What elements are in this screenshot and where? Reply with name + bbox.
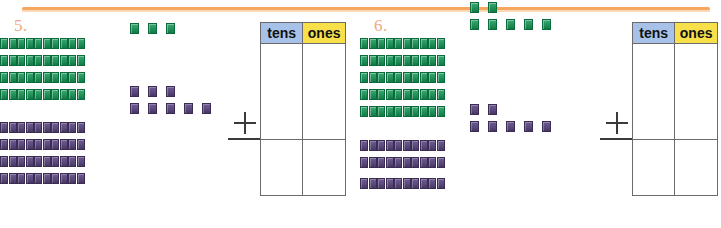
unit-cube-purple	[130, 86, 139, 97]
sum-entry-row	[261, 140, 346, 196]
rod-row	[0, 139, 250, 152]
ten-rod-purple	[0, 156, 85, 167]
addend-1-blocks-green	[0, 38, 250, 106]
addend-2-blocks-purple	[0, 122, 250, 190]
column-header-ones: ones	[675, 23, 718, 44]
plus-operator-icon	[234, 112, 256, 134]
rod-row	[0, 122, 250, 135]
unit-cube-purple	[166, 86, 175, 97]
rod-row	[0, 173, 250, 186]
unit-cubes-row-purple	[470, 104, 506, 115]
unit-cube-green	[166, 23, 175, 34]
unit-cube-purple	[470, 104, 479, 115]
addends-entry-row	[261, 44, 346, 140]
tens-addend-input-cell[interactable]	[261, 44, 303, 140]
ones-sum-input-cell[interactable]	[303, 140, 346, 196]
tens-sum-input-cell[interactable]	[261, 140, 303, 196]
unit-cube-purple	[130, 103, 139, 114]
unit-cube-purple	[488, 104, 497, 115]
unit-cube-purple	[542, 121, 551, 132]
unit-cube-purple	[166, 103, 175, 114]
rod-row	[0, 156, 250, 169]
tens-addend-input-cell[interactable]	[633, 44, 675, 140]
base-ten-blocks-area	[0, 0, 250, 228]
unit-cube-purple	[148, 86, 157, 97]
rod-row	[360, 178, 610, 191]
unit-cube-green	[470, 19, 479, 30]
table-header-row: tens ones	[633, 23, 718, 44]
ones-addend-input-cell[interactable]	[303, 44, 346, 140]
rod-row	[360, 55, 610, 68]
place-value-chart-wrapper: tens ones	[218, 0, 348, 228]
unit-cube-purple	[148, 103, 157, 114]
problem-5: 5.	[0, 0, 360, 228]
rod-row	[0, 72, 250, 85]
place-value-table: tens ones	[632, 22, 718, 196]
unit-cube-green	[542, 19, 551, 30]
ten-rod-green	[0, 89, 85, 100]
unit-cube-green	[130, 23, 139, 34]
base-ten-blocks-area	[360, 0, 610, 228]
ten-rod-green	[360, 106, 445, 117]
unit-cube-green	[488, 19, 497, 30]
rod-row	[0, 89, 250, 102]
rod-row	[360, 72, 610, 85]
unit-cube-purple	[524, 121, 533, 132]
unit-cube-purple	[506, 121, 515, 132]
ten-rod-green	[360, 89, 445, 100]
unit-cubes-row-purple	[130, 103, 220, 114]
unit-cube-purple	[488, 121, 497, 132]
ones-addend-input-cell[interactable]	[675, 44, 718, 140]
ten-rod-green	[0, 72, 85, 83]
ten-rod-purple	[0, 173, 85, 184]
ten-rod-green	[0, 55, 85, 66]
ten-rod-green	[360, 38, 445, 49]
plus-operator-icon	[606, 112, 628, 134]
rod-row	[360, 140, 610, 153]
unit-cubes-row-purple	[470, 121, 560, 132]
ten-rod-green	[360, 55, 445, 66]
ten-rod-purple	[360, 178, 445, 189]
tens-sum-input-cell[interactable]	[633, 140, 675, 196]
unit-cube-green	[506, 19, 515, 30]
rod-row	[0, 55, 250, 68]
addend-2-blocks-purple	[360, 140, 610, 195]
table-header-row: tens ones	[261, 23, 346, 44]
unit-cube-green	[470, 2, 479, 13]
unit-cubes-row-green	[470, 19, 560, 30]
ten-rod-purple	[0, 122, 85, 133]
worksheet-page: 5.	[0, 0, 721, 228]
addends-entry-row	[633, 44, 718, 140]
unit-cube-green	[488, 2, 497, 13]
unit-cube-purple	[184, 103, 193, 114]
rod-row	[360, 38, 610, 51]
place-value-chart-wrapper: tens ones	[590, 0, 720, 228]
ten-rod-green	[0, 38, 85, 49]
column-header-tens: tens	[633, 23, 675, 44]
unit-cube-green	[148, 23, 157, 34]
rod-row	[0, 38, 250, 51]
ten-rod-purple	[360, 140, 445, 151]
ones-sum-input-cell[interactable]	[675, 140, 718, 196]
column-header-tens: tens	[261, 23, 303, 44]
rod-row	[360, 157, 610, 170]
unit-cube-purple	[470, 121, 479, 132]
problem-6: 6.	[360, 0, 720, 228]
sum-entry-row	[633, 140, 718, 196]
ten-rod-purple	[360, 157, 445, 168]
ten-rod-green	[360, 72, 445, 83]
unit-cube-purple	[202, 103, 211, 114]
unit-cubes-row-green	[470, 2, 506, 13]
column-header-ones: ones	[303, 23, 346, 44]
ten-rod-purple	[0, 139, 85, 150]
rod-row	[360, 89, 610, 102]
place-value-table: tens ones	[260, 22, 346, 196]
unit-cubes-row-green	[130, 23, 184, 34]
unit-cubes-row-purple	[130, 86, 184, 97]
unit-cube-green	[524, 19, 533, 30]
